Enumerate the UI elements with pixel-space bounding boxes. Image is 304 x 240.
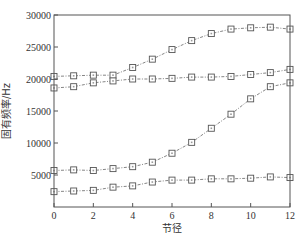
marker-center — [211, 33, 213, 35]
marker-center — [230, 28, 232, 30]
marker-center — [171, 179, 173, 181]
marker-center — [211, 178, 213, 180]
marker-center — [93, 170, 95, 172]
x-tick-label: 12 — [285, 210, 295, 221]
marker-center — [132, 185, 134, 187]
marker-center — [171, 49, 173, 51]
marker-center — [270, 72, 272, 74]
y-tick-label: 25000 — [26, 42, 51, 53]
marker-center — [270, 86, 272, 88]
marker-center — [191, 142, 193, 144]
marker-center — [93, 190, 95, 192]
y-tick-label: 20000 — [26, 74, 51, 85]
x-tick-label: 0 — [52, 210, 57, 221]
marker-center — [132, 78, 134, 80]
marker-center — [112, 186, 114, 188]
marker-center — [230, 113, 232, 115]
marker-center — [171, 152, 173, 154]
marker-center — [211, 127, 213, 129]
marker-center — [250, 177, 252, 179]
series-line — [54, 83, 290, 171]
marker-center — [73, 190, 75, 192]
y-tick-label: 10000 — [26, 138, 51, 149]
marker-center — [112, 74, 114, 76]
series-mode-2 — [51, 66, 293, 91]
marker-center — [191, 76, 193, 78]
marker-center — [73, 75, 75, 77]
marker-center — [112, 80, 114, 82]
marker-center — [191, 179, 193, 181]
marker-center — [132, 166, 134, 168]
x-tick-label: 4 — [130, 210, 135, 221]
marker-center — [73, 169, 75, 171]
series-mode-1 — [51, 24, 293, 79]
series-mode-4 — [51, 174, 293, 195]
marker-center — [152, 78, 154, 80]
y-axis-title: 固有频率/Hz — [0, 83, 12, 139]
marker-center — [230, 178, 232, 180]
marker-center — [73, 86, 75, 88]
marker-center — [93, 82, 95, 84]
x-tick-label: 2 — [91, 210, 96, 221]
x-tick-label: 6 — [170, 210, 175, 221]
x-tick-label: 10 — [246, 210, 256, 221]
x-axis-ticks: 024681012 — [52, 203, 296, 221]
marker-center — [270, 176, 272, 178]
marker-center — [250, 74, 252, 76]
marker-center — [152, 161, 154, 163]
marker-center — [93, 74, 95, 76]
marker-center — [112, 168, 114, 170]
x-axis-title: 节径 — [162, 222, 182, 234]
marker-center — [152, 181, 154, 183]
y-tick-label: 5000 — [31, 170, 51, 181]
marker-center — [270, 26, 272, 28]
x-tick-label: 8 — [209, 210, 214, 221]
marker-center — [230, 76, 232, 78]
marker-center — [250, 98, 252, 100]
series-layer — [51, 24, 293, 194]
y-tick-label: 15000 — [26, 106, 51, 117]
marker-center — [211, 76, 213, 78]
marker-center — [250, 27, 252, 29]
y-tick-label: 30000 — [26, 10, 51, 21]
marker-center — [152, 58, 154, 60]
marker-center — [132, 67, 134, 69]
y-axis-ticks: 50001000015000200002500030000 — [26, 10, 58, 181]
chart: 50001000015000200002500030000 024681012 … — [0, 0, 304, 240]
marker-center — [171, 78, 173, 80]
marker-center — [191, 40, 193, 42]
series-mode-3 — [51, 80, 293, 174]
